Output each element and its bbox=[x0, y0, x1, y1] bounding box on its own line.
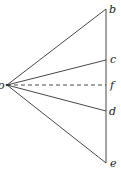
origin-point bbox=[6, 84, 9, 87]
ray-o-c bbox=[7, 60, 106, 85]
label-b: b bbox=[109, 3, 116, 16]
label-d: d bbox=[109, 105, 116, 118]
ray-diagram: o b c f d e bbox=[0, 0, 121, 175]
label-f: f bbox=[109, 79, 116, 92]
ray-o-e bbox=[7, 85, 106, 163]
ray-o-b bbox=[7, 9, 106, 85]
label-e: e bbox=[110, 157, 117, 170]
ray-o-d bbox=[7, 85, 106, 111]
label-o: o bbox=[0, 79, 5, 92]
label-c: c bbox=[110, 53, 116, 66]
